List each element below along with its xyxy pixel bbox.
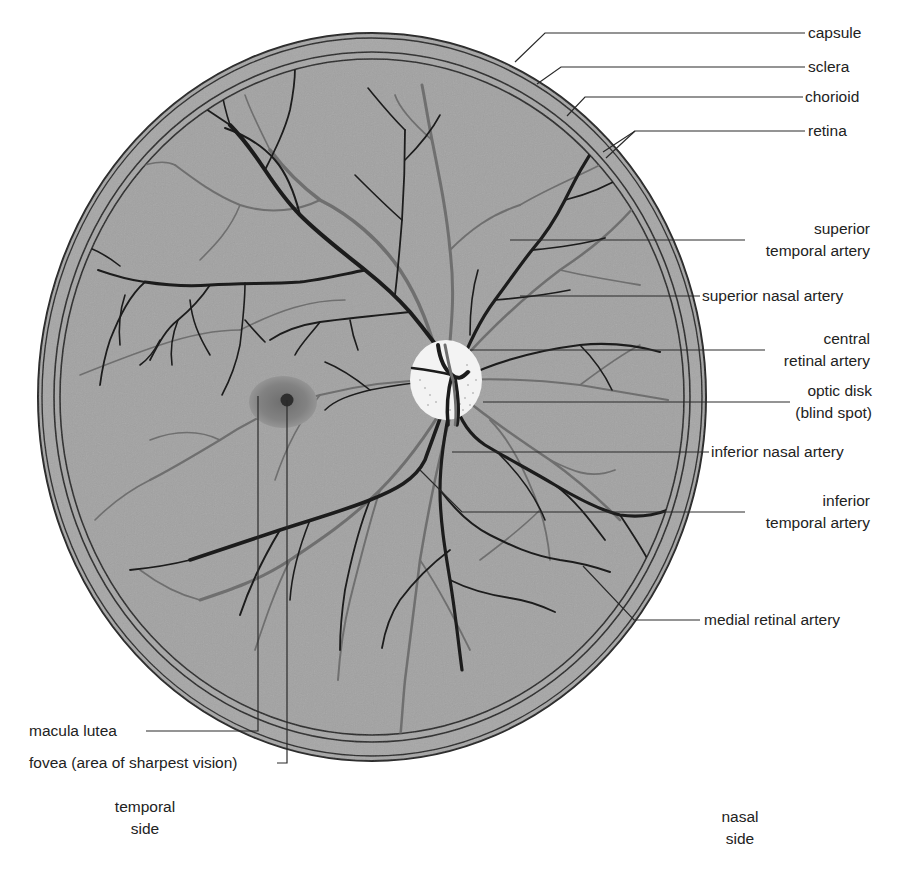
leader-retina-a: [603, 131, 805, 152]
label-central-retinal-artery: central retinal artery: [784, 328, 870, 372]
label-superior-temporal-artery: superior temporal artery: [766, 218, 870, 262]
label-nasal-side: nasal side: [710, 806, 770, 850]
label-optic-disk: optic disk (blind spot): [795, 380, 872, 424]
label-capsule: capsule: [808, 22, 861, 44]
label-macula-lutea: macula lutea: [29, 720, 117, 742]
label-chorioid: chorioid: [805, 86, 859, 108]
retina-fundus-diagram: [0, 0, 899, 870]
leader-sclera: [537, 67, 805, 84]
label-fovea: fovea (area of sharpest vision): [29, 752, 238, 774]
eye-layers: [38, 33, 706, 761]
label-inferior-nasal-artery: inferior nasal artery: [711, 441, 844, 463]
label-sclera: sclera: [808, 56, 849, 78]
leader-capsule: [515, 33, 805, 62]
label-inferior-temporal-artery: inferior temporal artery: [766, 490, 870, 534]
label-retina: retina: [808, 120, 847, 142]
label-temporal-side: temporal side: [110, 796, 180, 840]
leader-chorioid: [567, 97, 803, 116]
label-superior-nasal-artery: superior nasal artery: [702, 285, 843, 307]
label-medial-retinal-artery: medial retinal artery: [704, 609, 840, 631]
macula-lutea: [249, 376, 317, 428]
